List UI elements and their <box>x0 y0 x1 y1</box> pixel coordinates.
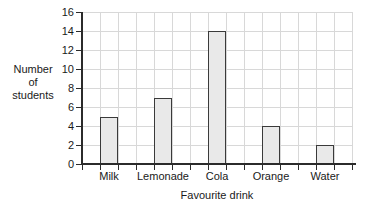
gridline-horizontal <box>82 12 352 13</box>
vertical-gridlines <box>82 12 352 164</box>
y-tick-mark <box>76 31 82 32</box>
bar <box>208 31 226 164</box>
bar <box>316 145 334 164</box>
y-axis-title-line-3: students <box>2 89 64 102</box>
x-axis-line <box>81 163 356 165</box>
y-tick-label: 10 <box>56 64 74 75</box>
gridline-horizontal <box>82 126 352 127</box>
gridline-horizontal <box>82 31 352 32</box>
x-category-label: Water <box>285 170 365 183</box>
bars-layer <box>82 12 352 164</box>
y-tick-mark <box>76 107 82 108</box>
gridline-vertical <box>136 12 137 164</box>
gridline-vertical <box>334 12 335 164</box>
gridline-vertical <box>100 12 101 164</box>
y-tick-label: 14 <box>56 26 74 37</box>
bar-chart: Number of students 0246810121416 MilkLem… <box>0 0 367 208</box>
plot-area <box>82 12 352 164</box>
y-axis-title: Number of students <box>2 63 64 102</box>
y-tick-mark <box>76 69 82 70</box>
gridline-horizontal <box>82 50 352 51</box>
gridline-horizontal <box>82 107 352 108</box>
y-axis-title-line-1: Number <box>2 63 64 76</box>
gridline-vertical <box>154 12 155 164</box>
y-tick-label: 16 <box>56 7 74 18</box>
y-tick-mark <box>76 12 82 13</box>
y-tick-label: 0 <box>56 159 74 170</box>
bar <box>154 98 172 165</box>
y-axis-title-line-2: of <box>2 76 64 89</box>
gridline-vertical <box>190 12 191 164</box>
y-tick-mark <box>76 50 82 51</box>
gridline-vertical <box>226 12 227 164</box>
y-tick-label: 2 <box>56 140 74 151</box>
y-tick-label: 12 <box>56 45 74 56</box>
y-tick-mark <box>76 126 82 127</box>
horizontal-gridlines <box>82 12 352 164</box>
gridline-vertical <box>298 12 299 164</box>
y-tick-label: 6 <box>56 102 74 113</box>
gridline-vertical <box>172 12 173 164</box>
y-tick-mark <box>76 145 82 146</box>
gridline-horizontal <box>82 69 352 70</box>
y-tick-label: 4 <box>56 121 74 132</box>
gridline-horizontal <box>82 145 352 146</box>
bar <box>262 126 280 164</box>
gridline-vertical <box>280 12 281 164</box>
gridline-vertical <box>316 12 317 164</box>
x-axis-title: Favourite drink <box>82 189 352 202</box>
gridline-horizontal <box>82 88 352 89</box>
gridline-vertical <box>244 12 245 164</box>
gridline-vertical <box>262 12 263 164</box>
gridline-vertical <box>352 12 353 164</box>
gridline-vertical <box>208 12 209 164</box>
bar <box>100 117 118 165</box>
gridline-vertical <box>118 12 119 164</box>
y-tick-mark <box>76 88 82 89</box>
y-tick-label: 8 <box>56 83 74 94</box>
